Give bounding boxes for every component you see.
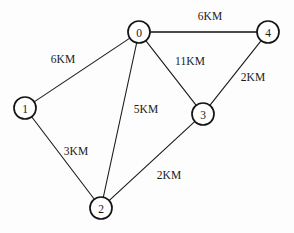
graph-figure: 01234 6KM6KM11KM5KM2KM3KM2KM xyxy=(0,0,294,233)
node-0[interactable]: 0 xyxy=(128,21,150,43)
graph-canvas: 01234 6KM6KM11KM5KM2KM3KM2KM xyxy=(0,0,294,233)
node-label-3: 3 xyxy=(200,109,206,121)
edge-0-2 xyxy=(103,43,136,198)
nodes-layer: 01234 xyxy=(14,21,279,219)
node-4[interactable]: 4 xyxy=(257,21,279,43)
node-label-2: 2 xyxy=(98,203,104,215)
edge-label-0-4: 6KM xyxy=(198,10,223,22)
node-1[interactable]: 1 xyxy=(14,97,36,119)
edge-label-0-2: 5KM xyxy=(134,103,159,115)
edge-label-1-2: 3KM xyxy=(64,145,89,157)
edge-0-1 xyxy=(34,38,130,102)
node-label-1: 1 xyxy=(22,103,28,115)
node-3[interactable]: 3 xyxy=(192,103,214,125)
node-label-0: 0 xyxy=(136,27,142,39)
edge-0-3 xyxy=(146,41,196,106)
edge-2-3 xyxy=(109,121,195,200)
node-label-4: 4 xyxy=(265,27,271,39)
edge-label-0-3: 11KM xyxy=(175,55,205,67)
edge-label-3-4: 2KM xyxy=(241,71,266,83)
edge-label-2-3: 2KM xyxy=(157,169,182,181)
node-2[interactable]: 2 xyxy=(90,197,112,219)
edge-1-2 xyxy=(32,117,95,199)
edge-label-0-1: 6KM xyxy=(51,53,76,65)
